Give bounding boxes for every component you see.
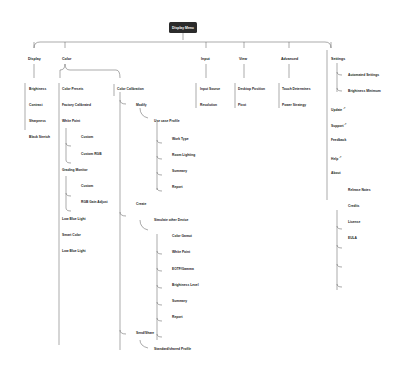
external-link-icon: ↗ [343,106,346,110]
grading-child: Custom [81,184,93,188]
preset-item: Low Blue Light [62,217,86,221]
use-case-profile: Use case Profile [154,119,179,123]
menu-tree-diagram: Display Menu Display Brightness Contrast… [0,0,403,368]
label: Update [331,108,342,112]
settings-item-support[interactable]: Support↗ [331,122,347,128]
display-item: Brightness [29,87,46,91]
calibration-share: Send/Share [136,331,154,335]
device-child: Report [172,315,183,319]
view-item: Pivot [238,103,246,107]
preset-item: Low Blue Light [62,249,86,253]
about-child: Release Notes [348,188,371,192]
advanced-item: Power Strategy [282,103,306,107]
shared-profile: Standard/shared Profile [154,347,191,351]
settings-about: About [331,171,341,175]
label: Support [331,124,344,128]
display-item: Contrast [29,103,43,107]
branch-view: View [239,57,247,61]
branch-input: Input [201,57,210,61]
advanced-item: Touch Determines [282,87,311,91]
settings-item-update[interactable]: Update↗ [331,106,346,112]
device-child: Color Gamut [172,234,192,238]
connector-lines [0,0,403,368]
device-child: Summary [172,299,187,303]
calibration-create: Create [136,202,146,206]
color-calibration: Color Calibration [117,87,144,91]
preset-item: Factory Calibrated [62,103,91,107]
profile-child: Room Lighting [172,153,195,157]
white-point-child: Custom [81,135,93,139]
branch-settings: Settings [331,57,345,61]
display-item: Sharpness [29,119,46,123]
white-point-child: Custom RGB [81,152,102,156]
branch-color: Color [62,57,71,61]
device-child: Brightness Level [172,283,199,287]
profile-child: Work Type [172,137,189,141]
preset-item: Grading Monitor [62,168,88,172]
preset-item: White Point [62,119,80,123]
input-item: Input Source [200,87,220,91]
display-item: Black Stretch [29,135,50,139]
profile-child: Report [172,185,183,189]
profile-child: Summary [172,169,187,173]
external-link-icon: ↗ [344,122,347,126]
simulate-device: Simulate other Device [154,218,188,222]
about-child: License [348,220,360,224]
input-item: Resolution [200,103,217,107]
about-child: EULA [348,236,357,240]
branch-display: Display [28,57,41,61]
device-child: EOTF/Gamma [172,267,194,271]
settings-item-feedback[interactable]: Feedback [331,138,346,142]
settings-item-help[interactable]: Help↗ [331,155,342,161]
view-item: Desktop Position [238,87,265,91]
device-child: White Point [172,250,190,254]
settings-child: Brightness Minimum [348,89,381,93]
label: Help [331,157,338,161]
settings-child: Automated Settings [348,73,379,77]
color-presets: Color Presets [62,87,83,91]
root-node: Display Menu [169,22,197,33]
external-link-icon: ↗ [339,155,342,159]
calibration-modify: Modify [136,103,147,107]
about-child: Credits [348,204,359,208]
grading-child: RGB Gain Adjust [81,200,108,204]
branch-advanced: Advanced [281,57,298,61]
preset-item: Smart Color [62,233,81,237]
